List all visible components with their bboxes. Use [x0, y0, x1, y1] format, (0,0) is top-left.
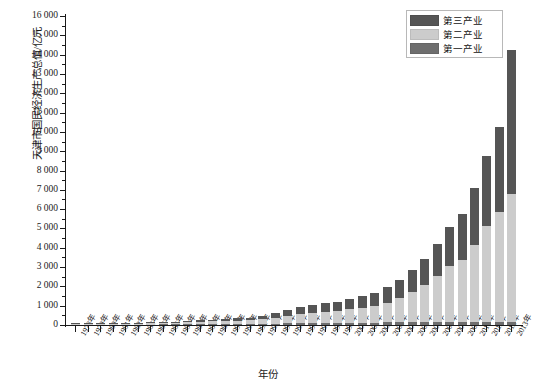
bar-segment-第二产业: [358, 308, 367, 323]
bar-segment-第三产业: [84, 323, 93, 324]
bar-segment-第二产业: [433, 276, 442, 322]
x-tick-1986年: [175, 326, 176, 332]
bar-2012年: [495, 16, 504, 325]
bar-segment-第一产业: [507, 322, 516, 325]
x-tick-1995年: [287, 326, 288, 332]
bar-segment-第二产业: [233, 321, 242, 324]
bar-2010年: [470, 16, 479, 325]
bar-segment-第二产业: [395, 298, 404, 322]
y-tick-label-12000: 12 000: [0, 88, 58, 98]
bar-segment-第二产业: [208, 321, 217, 324]
bar-segment-第二产业: [146, 323, 155, 325]
y-tick-label-6000: 6 000: [0, 204, 58, 214]
y-tick-label-16000: 16 000: [0, 11, 58, 21]
bar-1991年: [233, 16, 242, 325]
bar-segment-第一产业: [495, 322, 504, 325]
y-tick-label-15000: 15 000: [0, 30, 58, 40]
bar-segment-第一产业: [370, 323, 379, 326]
x-tick-2007年: [437, 326, 438, 332]
x-tick-1985年: [163, 326, 164, 332]
bar-segment-第三产业: [233, 318, 242, 320]
x-tick-1987年: [187, 326, 188, 332]
bar-segment-第一产业: [470, 322, 479, 325]
bar-segment-第三产业: [482, 156, 491, 226]
legend-item-secondary[interactable]: 第二产业: [410, 27, 499, 41]
bar-segment-第一产业: [358, 323, 367, 325]
y-tick-label-7000: 7 000: [0, 185, 58, 195]
bar-2007年: [433, 16, 442, 325]
bar-2011年: [482, 16, 491, 325]
bar-segment-第三产业: [458, 214, 467, 260]
legend-item-primary[interactable]: 第一产业: [410, 41, 499, 55]
x-tick-2010年: [474, 326, 475, 332]
bar-2006年: [420, 16, 429, 325]
bar-segment-第一产业: [308, 323, 317, 325]
bar-1998年: [321, 16, 330, 325]
x-tick-2012年: [499, 326, 500, 332]
bar-segment-第二产业: [495, 212, 504, 322]
bar-1993年: [258, 16, 267, 325]
bar-segment-第一产业: [333, 323, 342, 325]
bar-segment-第二产业: [345, 309, 354, 322]
bar-segment-第三产业: [433, 244, 442, 276]
bar-segment-第三产业: [221, 319, 230, 321]
legend-item-tertiary[interactable]: 第三产业: [410, 13, 499, 27]
bar-segment-第二产业: [321, 312, 330, 323]
bar-1983年: [134, 16, 143, 325]
bar-1979年: [84, 16, 93, 325]
x-tick-1990年: [225, 326, 226, 332]
y-tick-label-11000: 11 000: [0, 108, 58, 118]
x-tick-1996年: [300, 326, 301, 332]
bar-segment-第一产业: [420, 322, 429, 325]
bar-segment-第二产业: [283, 316, 292, 323]
x-tick-2001年: [362, 326, 363, 332]
bar-1994年: [271, 16, 280, 325]
y-tick-label-0: 0: [0, 320, 58, 330]
bar-segment-第二产业: [171, 323, 180, 325]
bar-segment-第一产业: [196, 324, 205, 325]
chart-figure: 天津市国民经济生产总值/亿元 年份 01 0002 0003 0004 0005…: [0, 0, 536, 386]
bar-segment-第三产业: [146, 322, 155, 323]
x-tick-1980年: [100, 326, 101, 332]
bar-segment-第三产业: [134, 323, 143, 324]
bar-segment-第一产业: [283, 323, 292, 325]
bar-segment-第二产业: [470, 245, 479, 322]
bar-segment-第三产业: [296, 307, 305, 314]
bar-segment-第二产业: [71, 324, 80, 325]
bar-2009年: [458, 16, 467, 325]
bar-segment-第一产业: [445, 322, 454, 325]
bar-segment-第三产业: [420, 259, 429, 285]
x-tick-2013年: [511, 326, 512, 332]
x-tick-1984年: [150, 326, 151, 332]
bar-segment-第二产业: [196, 322, 205, 325]
bar-segment-第三产业: [71, 323, 80, 324]
bar-1984年: [146, 16, 155, 325]
x-axis-label: 年份: [0, 366, 536, 381]
bar-segment-第二产业: [121, 323, 130, 324]
bar-segment-第三产业: [196, 320, 205, 321]
x-tick-1991年: [237, 326, 238, 332]
legend-label-tertiary: 第三产业: [443, 13, 483, 27]
bar-segment-第一产业: [296, 323, 305, 325]
bar-2013年: [507, 16, 516, 325]
bar-segment-第一产业: [233, 324, 242, 325]
bar-1978年: [71, 16, 80, 325]
bar-segment-第三产业: [208, 320, 217, 322]
bar-segment-第三产业: [383, 287, 392, 302]
legend-label-secondary: 第二产业: [443, 27, 483, 41]
y-tick-label-9000: 9 000: [0, 146, 58, 156]
bar-segment-第二产业: [333, 311, 342, 323]
bar-segment-第三产业: [445, 227, 454, 266]
bar-1985年: [159, 16, 168, 325]
x-tick-1982年: [125, 326, 126, 332]
y-tick-label-2000: 2 000: [0, 281, 58, 291]
bar-1987年: [183, 16, 192, 325]
bar-segment-第三产业: [159, 322, 168, 323]
y-tick-label-3000: 3 000: [0, 262, 58, 272]
bar-segment-第三产业: [171, 322, 180, 323]
x-tick-1992年: [250, 326, 251, 332]
bar-segment-第二产业: [482, 226, 491, 322]
bar-segment-第三产业: [109, 323, 118, 324]
bar-segment-第一产业: [383, 322, 392, 325]
bar-segment-第二产业: [159, 323, 168, 325]
